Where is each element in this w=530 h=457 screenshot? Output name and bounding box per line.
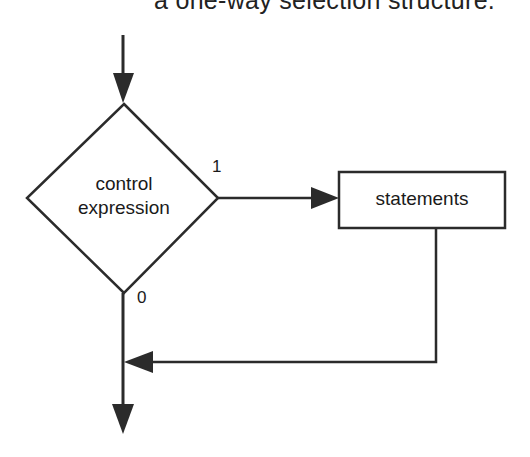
true-branch-arrow <box>218 187 339 209</box>
return-path <box>124 228 436 373</box>
false-branch-label: 0 <box>137 288 146 308</box>
decision-label-line2: expression <box>54 196 194 220</box>
decision-label: control expression <box>54 172 194 220</box>
flowchart <box>0 0 530 457</box>
entry-arrow <box>113 35 134 103</box>
true-branch-label: 1 <box>212 157 221 177</box>
decision-label-line1: control <box>54 172 194 196</box>
process-label: statements <box>339 187 505 211</box>
